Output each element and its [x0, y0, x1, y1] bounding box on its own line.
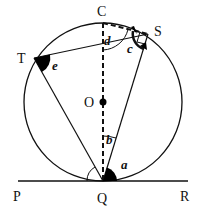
angle-a-marker	[103, 168, 117, 181]
angle-label-d: d	[104, 33, 111, 48]
point-label-R: R	[180, 189, 190, 204]
point-label-T: T	[17, 51, 26, 66]
centre-point-O	[100, 99, 107, 106]
point-label-O: O	[84, 95, 94, 110]
point-label-C: C	[97, 4, 106, 19]
point-label-S: S	[154, 24, 162, 39]
angle-PQT-marker	[87, 167, 95, 181]
point-label-Q: Q	[97, 191, 107, 206]
point-label-P: P	[13, 189, 21, 204]
angle-label-b: b	[106, 132, 113, 147]
angle-label-c: c	[127, 41, 133, 56]
angle-label-e: e	[52, 58, 58, 73]
angle-label-a: a	[121, 157, 128, 172]
chord-TQ	[34, 58, 103, 181]
geometry-diagram: d c e b a C S T O P Q R	[0, 0, 202, 214]
